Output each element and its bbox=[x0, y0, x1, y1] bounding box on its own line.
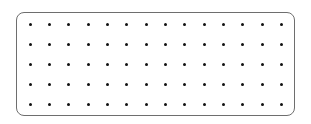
grid-dot bbox=[106, 23, 109, 26]
grid-dot bbox=[145, 83, 148, 86]
grid-dot bbox=[67, 83, 70, 86]
grid-dot bbox=[203, 43, 206, 46]
grid-dot bbox=[241, 23, 244, 26]
grid-dot bbox=[67, 103, 70, 106]
grid-dot bbox=[241, 63, 244, 66]
grid-dot bbox=[29, 23, 32, 26]
dot-grid-frame bbox=[16, 12, 295, 116]
grid-dot bbox=[48, 83, 51, 86]
grid-dot bbox=[87, 23, 90, 26]
grid-dot bbox=[222, 23, 225, 26]
grid-dot bbox=[48, 43, 51, 46]
grid-dot bbox=[87, 103, 90, 106]
grid-dot bbox=[29, 83, 32, 86]
grid-dot bbox=[87, 43, 90, 46]
grid-dot bbox=[261, 43, 264, 46]
grid-dot bbox=[280, 23, 283, 26]
grid-dot bbox=[241, 83, 244, 86]
grid-dot bbox=[203, 103, 206, 106]
grid-dot bbox=[183, 23, 186, 26]
grid-dot bbox=[183, 63, 186, 66]
grid-dot bbox=[125, 23, 128, 26]
grid-dot bbox=[241, 103, 244, 106]
grid-dot bbox=[125, 63, 128, 66]
grid-dot bbox=[106, 103, 109, 106]
grid-dot bbox=[67, 23, 70, 26]
grid-dot bbox=[183, 43, 186, 46]
grid-dot bbox=[48, 103, 51, 106]
grid-dot bbox=[125, 103, 128, 106]
grid-dot bbox=[203, 23, 206, 26]
grid-dot bbox=[145, 63, 148, 66]
grid-dot bbox=[48, 63, 51, 66]
grid-dot bbox=[203, 83, 206, 86]
grid-dot bbox=[29, 63, 32, 66]
grid-dot bbox=[203, 63, 206, 66]
grid-dot bbox=[106, 43, 109, 46]
grid-dot bbox=[241, 43, 244, 46]
grid-dot bbox=[280, 63, 283, 66]
grid-dot bbox=[222, 43, 225, 46]
grid-dot bbox=[280, 43, 283, 46]
grid-dot bbox=[125, 43, 128, 46]
grid-dot bbox=[67, 43, 70, 46]
grid-dot bbox=[222, 103, 225, 106]
grid-dot bbox=[164, 103, 167, 106]
grid-dot bbox=[164, 23, 167, 26]
grid-dot bbox=[280, 103, 283, 106]
grid-dot bbox=[222, 83, 225, 86]
grid-dot bbox=[183, 103, 186, 106]
grid-dot bbox=[261, 103, 264, 106]
grid-dot bbox=[164, 63, 167, 66]
grid-dot bbox=[145, 103, 148, 106]
grid-dot bbox=[125, 83, 128, 86]
grid-dot bbox=[87, 83, 90, 86]
grid-dot bbox=[29, 43, 32, 46]
grid-dot bbox=[29, 103, 32, 106]
grid-dot bbox=[183, 83, 186, 86]
grid-dot bbox=[280, 83, 283, 86]
grid-dot bbox=[145, 23, 148, 26]
grid-dot bbox=[222, 63, 225, 66]
grid-dot bbox=[261, 83, 264, 86]
grid-dot bbox=[261, 63, 264, 66]
grid-dot bbox=[106, 63, 109, 66]
grid-dot bbox=[145, 43, 148, 46]
grid-dot bbox=[164, 43, 167, 46]
grid-dot bbox=[164, 83, 167, 86]
grid-dot bbox=[67, 63, 70, 66]
grid-dot bbox=[48, 23, 51, 26]
grid-dot bbox=[106, 83, 109, 86]
grid-dot bbox=[87, 63, 90, 66]
grid-dot bbox=[261, 23, 264, 26]
